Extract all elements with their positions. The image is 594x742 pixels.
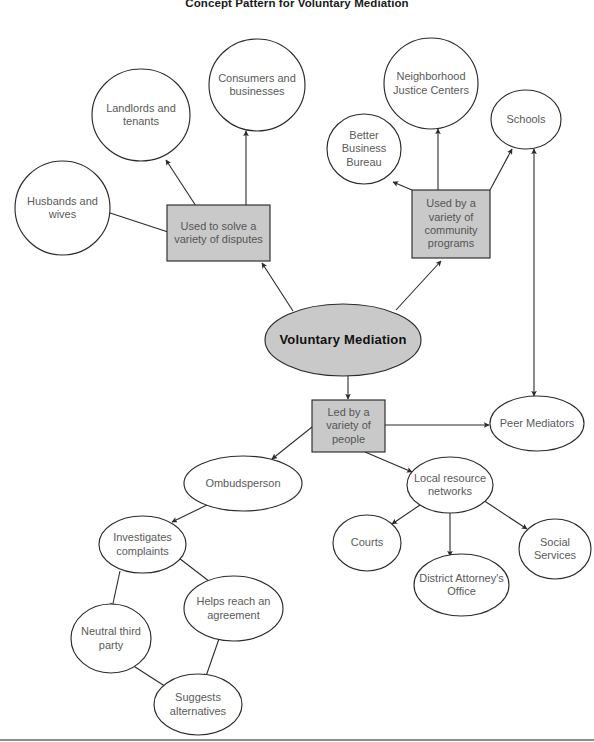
bottom-divider bbox=[0, 739, 594, 741]
node-shape-neutral-third-party[interactable] bbox=[71, 604, 151, 673]
edge-disputes-to-landlords bbox=[166, 160, 196, 206]
edge-community-to-schools bbox=[490, 149, 512, 190]
node-shape-landlords-and-tenants[interactable] bbox=[92, 69, 190, 161]
node-shape-ombudsperson[interactable] bbox=[184, 456, 302, 511]
node-shape-courts[interactable] bbox=[333, 515, 401, 571]
edge-community-to-bbb bbox=[393, 182, 412, 190]
node-shape-local-resource-networks[interactable] bbox=[407, 457, 493, 513]
node-shape-helps-reach-an-agreement[interactable] bbox=[184, 576, 283, 641]
edge-local-to-social-services bbox=[483, 500, 527, 529]
node-shape-led-by-variety-of-people[interactable] bbox=[312, 400, 385, 452]
edge-led-by-to-ombudsperson bbox=[272, 427, 312, 459]
edge-led-by-to-local-resource bbox=[365, 452, 412, 472]
concept-map-canvas bbox=[0, 0, 594, 742]
node-shape-better-business-bureau[interactable] bbox=[327, 114, 401, 184]
edge-investigates-to-neutral bbox=[112, 571, 120, 608]
edge-helps-to-suggests bbox=[205, 636, 220, 679]
edge-ombudsperson-to-investigates bbox=[172, 504, 209, 522]
node-shape-district-attorneys-office[interactable] bbox=[414, 554, 509, 616]
node-shape-husbands-and-wives[interactable] bbox=[15, 161, 110, 255]
node-shape-social-services[interactable] bbox=[519, 519, 591, 579]
node-shape-voluntary-mediation[interactable] bbox=[265, 304, 421, 376]
node-shape-schools[interactable] bbox=[491, 90, 561, 149]
node-shape-suggests-alternatives[interactable] bbox=[154, 674, 242, 735]
node-shape-consumers-and-businesses[interactable] bbox=[209, 39, 305, 131]
node-shape-peer-mediators[interactable] bbox=[490, 396, 584, 451]
edge-disputes-to-husbands bbox=[104, 211, 168, 232]
edge-local-to-courts bbox=[392, 505, 420, 524]
edge-central-to-disputes bbox=[262, 263, 293, 311]
node-shape-investigates-complaints[interactable] bbox=[99, 516, 186, 573]
node-shape-neighborhood-justice-centers[interactable] bbox=[384, 38, 478, 129]
node-shape-used-to-solve-disputes[interactable] bbox=[167, 205, 270, 261]
edge-central-to-community bbox=[396, 261, 441, 310]
node-shape-used-by-community-programs[interactable] bbox=[412, 190, 490, 258]
